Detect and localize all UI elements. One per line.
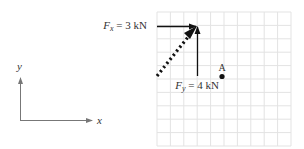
point-a-label: A <box>218 62 226 73</box>
coordinate-axes: y x <box>16 60 102 126</box>
y-axis-label: y <box>16 60 22 72</box>
point-a: A <box>218 62 226 79</box>
fy-label: Fy = 4 kN <box>174 79 219 93</box>
x-axis-label: x <box>96 114 102 126</box>
resultant-vector <box>157 26 197 76</box>
force-diagram: y x Fx = 3 kN Fy = 4 kN A <box>0 0 304 149</box>
point-a-dot-icon <box>219 74 224 79</box>
fx-label: Fx = 3 kN <box>102 19 147 33</box>
